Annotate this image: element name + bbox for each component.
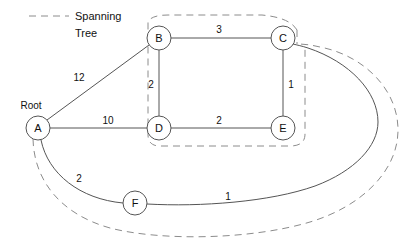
edge-weight-a-b: 12: [73, 72, 85, 83]
graph-edges-group: [41, 38, 378, 205]
node-d[interactable]: D: [147, 116, 171, 140]
node-b-label: B: [155, 32, 162, 44]
edge-weight-a-d: 10: [102, 115, 114, 126]
node-f[interactable]: F: [123, 191, 147, 215]
node-a-label: A: [34, 122, 42, 134]
edge-a-f: [41, 140, 123, 203]
node-f-label: F: [132, 197, 139, 209]
edge-weight-a-f: 2: [76, 173, 82, 184]
root-label: Root: [20, 100, 41, 111]
node-e[interactable]: E: [271, 116, 295, 140]
node-c[interactable]: C: [271, 26, 295, 50]
edge-weight-f-c: 1: [225, 191, 231, 202]
node-d-label: D: [155, 122, 163, 134]
edge-a-b: [47, 45, 149, 120]
node-c-label: C: [279, 32, 287, 44]
node-b[interactable]: B: [147, 26, 171, 50]
edge-f-c: [147, 44, 378, 205]
spanning-tree-figure: A B C D E F 12: [0, 0, 413, 247]
edge-weight-b-d: 2: [148, 79, 154, 90]
node-e-label: E: [279, 122, 286, 134]
graph-nodes-group: A B C D E F: [26, 26, 295, 215]
legend: Spanning Tree: [29, 10, 122, 39]
edge-weight-b-c: 3: [216, 24, 222, 35]
legend-label-line1: Spanning: [75, 10, 122, 22]
edge-weight-labels-group: 12 10 3 2 1 2 2 1: [73, 24, 294, 202]
edge-weight-d-e: 2: [216, 115, 222, 126]
graph-canvas: A B C D E F 12: [0, 0, 413, 247]
node-a[interactable]: A: [26, 116, 50, 140]
legend-label-line2: Tree: [75, 27, 97, 39]
edge-weight-c-e: 1: [288, 79, 294, 90]
tree-outline-outer-loop: [33, 44, 398, 237]
